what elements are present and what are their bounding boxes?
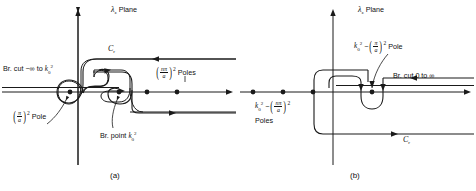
- caption-b: (b): [350, 171, 360, 180]
- panel-b-diagram: [238, 0, 476, 191]
- contour-cr-main: [57, 59, 236, 113]
- br-cut-prefix-b: Br. cut: [393, 71, 413, 80]
- branch-point-label-a: Br. point k02: [100, 131, 137, 142]
- left-paren-pole-a: (: [13, 111, 16, 123]
- pole-dot-b2: [281, 90, 286, 95]
- figure-root: λz Plane Cr Br. cut −∞ to k02 (nπa)2 Pol…: [0, 0, 476, 191]
- k-sub-a: 0: [48, 70, 51, 75]
- pole-fraction-den-a: a: [17, 116, 22, 123]
- k0-squared-a: k02: [45, 64, 53, 75]
- pole-k-sub-b: 0: [357, 47, 360, 52]
- poles-label-b: k02 −(nπa)2 Poles: [255, 100, 290, 124]
- plane-title-a: λz Plane: [111, 6, 137, 15]
- left-paren-pole-b: (: [370, 41, 373, 53]
- contour-direction-arrows-b: [358, 75, 417, 136]
- real-axis-b: [240, 89, 471, 94]
- fraction-npi-a: nπa: [160, 66, 168, 80]
- poles-minus-b: −: [265, 102, 269, 111]
- plane-word-a: Plane: [119, 5, 137, 14]
- pole-fraction-den-b: a: [373, 46, 378, 53]
- poles-expression-b: k02 −(nπa)2: [255, 100, 290, 114]
- poles-power-a: 2: [173, 66, 176, 72]
- pole-dot-1: [145, 90, 150, 95]
- right-paren-pole-a: ): [23, 111, 26, 123]
- left-paren-poles-b: (: [271, 101, 274, 113]
- fraction-npi-b: nπa: [274, 100, 282, 114]
- panel-a-diagram: [0, 0, 238, 191]
- bp-k-sub-a: 0: [132, 137, 135, 142]
- k0-squared-poles-b: k02: [255, 101, 263, 112]
- pole-word-a: Pole: [32, 112, 46, 121]
- plane-title-b: λz Plane: [358, 6, 384, 15]
- branch-cut-label-a: Br. cut −∞ to k02: [3, 64, 53, 75]
- right-paren-poles-b: ): [284, 101, 287, 113]
- poles-k-sub-b: 0: [258, 107, 261, 112]
- poles-fraction-num-b: nπ: [274, 100, 282, 106]
- contour-sub-b: r: [408, 140, 410, 145]
- pole-label-b: k02 −(πa)2 Pole: [354, 40, 403, 54]
- pole-dot-pi-over-a: [68, 90, 73, 95]
- k0-squared-b: k02: [354, 41, 362, 52]
- bp-k-sup-a: 2: [134, 131, 137, 136]
- fraction-pi-a: πa: [17, 110, 22, 124]
- right-paren-pole-b: ): [380, 41, 383, 53]
- lambda-subscript-a: z: [114, 10, 116, 15]
- k-sup-a: 2: [50, 64, 53, 69]
- br-cut-range-b: 0 to ∞: [415, 71, 434, 80]
- contour-label-b: Cr: [403, 136, 410, 145]
- plane-word-b: Plane: [366, 5, 384, 14]
- poles-word-b: Poles: [255, 117, 290, 124]
- fraction-num-a: nπ: [160, 66, 168, 72]
- pole-dot-b1: [251, 90, 256, 95]
- pole-label-a: (πa)2 Pole: [12, 110, 46, 124]
- br-point-prefix-a: Br. point: [100, 131, 126, 140]
- main-pole-dot-b: [370, 90, 375, 95]
- fraction-pi-b: πa: [373, 40, 378, 54]
- poles-label-a: (nπa)2 Poles: [155, 66, 196, 80]
- contour-sub-a: r: [113, 49, 115, 54]
- pole-dot-2: [175, 90, 180, 95]
- pole-k-sup-b: 2: [360, 41, 363, 46]
- contour-label-a: Cr: [108, 45, 115, 54]
- branch-cut-label-b: Br. cut 0 to ∞: [393, 72, 434, 79]
- pole-dot-b3: [311, 90, 316, 95]
- br-cut-prefix-a: Br. cut: [3, 64, 23, 73]
- pole-minus-b: −: [364, 42, 368, 51]
- label-leaders-b: [369, 54, 388, 88]
- pole-word-b: Pole: [388, 42, 402, 51]
- left-paren-poles-a: (: [156, 67, 159, 79]
- poles-k-sup-b: 2: [261, 101, 264, 106]
- contour-cr: [58, 59, 236, 112]
- pole-power-b: 2: [383, 40, 386, 46]
- fraction-den-a: a: [160, 72, 168, 79]
- panel-b: λz Plane k02 −(πa)2 Pole Br. cut 0 to ∞ …: [238, 0, 476, 191]
- pole-power-a: 2: [27, 110, 30, 116]
- k0-squared-bp-a: k02: [128, 131, 136, 142]
- right-paren-poles-a: ): [169, 67, 172, 79]
- poles-power-b: 2: [287, 100, 290, 106]
- branch-point-dot: [117, 90, 122, 95]
- br-cut-range-a: −∞ to: [25, 64, 42, 73]
- caption-a: (a): [110, 171, 120, 180]
- panel-a: λz Plane Cr Br. cut −∞ to k02 (nπa)2 Pol…: [0, 0, 238, 191]
- label-leaders: [47, 76, 185, 128]
- poles-word-a: Poles: [178, 68, 196, 77]
- imaginary-axis-b: [330, 9, 335, 165]
- lambda-subscript-b: z: [361, 10, 363, 15]
- poles-fraction-den-b: a: [274, 106, 282, 113]
